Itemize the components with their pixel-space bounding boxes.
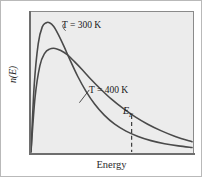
curve-400k	[31, 48, 192, 152]
leader-line-400k	[79, 90, 89, 103]
plot-area	[29, 11, 194, 154]
fermi-energy-label: EF	[123, 105, 133, 118]
x-axis-spine	[29, 153, 195, 155]
curve-canvas	[30, 12, 193, 153]
series-label-400k: T = 400 K	[89, 85, 128, 95]
series-label-300k: T = 300 K	[62, 20, 101, 30]
y-axis-label: n(E)	[7, 53, 18, 97]
x-axis-label: Energy	[29, 159, 194, 170]
y-axis-spine	[29, 11, 31, 155]
fermi-energy-subscript: F	[129, 111, 133, 118]
figure-container: n(E) Energy T = 300 K T = 400 K EF	[0, 0, 202, 177]
